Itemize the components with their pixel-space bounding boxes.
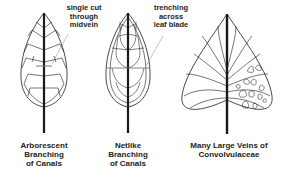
leaf-convolvulaceae-drawing [182, 14, 272, 134]
caption-arborescent: Arborescent Branching of Canals [12, 141, 76, 168]
leaf-arborescent-drawing [21, 13, 68, 133]
caption-convolvulaceae: Many Large Veins of Convolvulaceae [184, 141, 274, 159]
caption-netlike: Netlike Branching of Canals [98, 141, 158, 168]
leaf-netlike-drawing [106, 13, 163, 133]
annotation-single-cut: single cut through midvein [60, 4, 108, 30]
annotation-trenching: trenching across leaf blade [146, 4, 196, 30]
